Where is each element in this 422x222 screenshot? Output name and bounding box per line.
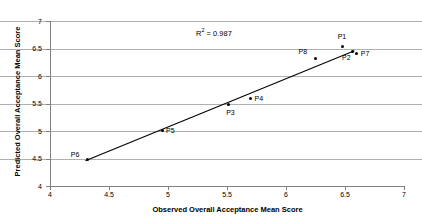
y-axis-title: Predicted Overall Acceptance Mean Score (13, 17, 22, 187)
data-point-p3 (227, 103, 230, 106)
x-axis-title: Observed Overall Acceptance Mean Score (50, 205, 405, 214)
data-point-label-p7: P7 (361, 50, 370, 57)
data-point-p4 (249, 97, 252, 100)
data-point-p8 (314, 57, 317, 60)
data-point-label-p4: P4 (255, 95, 264, 102)
data-point-label-p3: P3 (226, 109, 235, 116)
r-value: = 0.987 (204, 29, 231, 38)
scatter-chart: 7 6.5 6 5.5 5 4.5 4 4 4.5 5 5.5 6 6.5 7 … (0, 0, 422, 222)
data-point-p5 (161, 129, 164, 132)
data-point-label-p2: P2 (342, 54, 351, 61)
data-point-label-p6: P6 (71, 151, 80, 158)
data-point-label-p5: P5 (166, 127, 175, 134)
data-point-label-p8: P8 (299, 48, 308, 55)
r-squared-annotation: R2 = 0.987 (196, 27, 232, 38)
data-point-p2 (351, 50, 354, 53)
data-point-label-p1: P1 (338, 33, 347, 40)
